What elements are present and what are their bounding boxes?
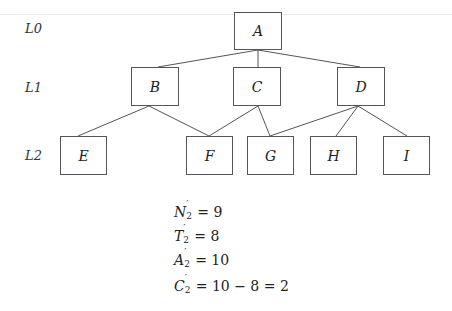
prime-mark: ′ <box>185 272 187 283</box>
subscript: 2 <box>185 285 191 295</box>
node-i: I <box>383 136 430 175</box>
node-d: D <box>337 67 385 106</box>
formula-symbol: A <box>174 252 184 268</box>
level-label-l1: L1 <box>25 80 42 95</box>
prime-subscript: ′2 <box>183 231 191 241</box>
node-g: G <box>247 136 294 175</box>
node-label: G <box>265 148 276 164</box>
subscript: 2 <box>184 259 190 269</box>
formula-rhs: = 10 <box>195 252 229 268</box>
edge-c-f <box>209 106 258 136</box>
node-c: C <box>233 67 281 106</box>
prime-mark: ′ <box>186 198 188 209</box>
node-label: I <box>404 148 410 164</box>
formula-symbol: N <box>174 204 186 220</box>
edge-a-d <box>258 50 360 67</box>
formula-rhs: = 9 <box>197 204 222 220</box>
formula-n: N′2= 9 <box>174 204 222 220</box>
formula-symbol: T <box>174 228 183 244</box>
formula-symbol: C <box>174 278 185 294</box>
prime-mark: ′ <box>184 246 186 257</box>
node-label: A <box>253 23 263 39</box>
node-h: H <box>310 136 357 175</box>
formula-a: A′2= 10 <box>174 252 229 268</box>
formula-rhs: = 10 − 8 = 2 <box>196 278 289 294</box>
node-label: B <box>150 79 160 95</box>
node-b: B <box>131 67 179 106</box>
edge-b-e <box>78 106 149 136</box>
subscript: 2 <box>183 235 189 245</box>
level-label-l2: L2 <box>25 148 42 163</box>
edge-d-h <box>336 106 358 136</box>
prime-subscript: ′2 <box>185 281 193 291</box>
node-label: D <box>355 79 366 95</box>
formula-c: C′2= 10 − 8 = 2 <box>174 278 289 294</box>
node-f: F <box>186 136 233 175</box>
node-a: A <box>234 12 282 50</box>
node-label: F <box>205 148 215 164</box>
formula-rhs: = 8 <box>194 228 219 244</box>
prime-subscript: ′2 <box>184 255 192 265</box>
prime-mark: ′ <box>183 222 185 233</box>
prime-subscript: ′2 <box>186 207 194 217</box>
edge-c-g <box>258 106 270 136</box>
edge-d-g <box>270 106 358 136</box>
edge-b-f <box>149 106 209 136</box>
node-e: E <box>60 136 107 175</box>
formula-t: T′2= 8 <box>174 228 219 244</box>
node-label: E <box>78 148 88 164</box>
subscript: 2 <box>186 211 192 221</box>
node-label: H <box>327 148 339 164</box>
edge-a-b <box>158 50 258 67</box>
node-label: C <box>252 79 263 95</box>
edge-d-i <box>358 106 407 136</box>
level-label-l0: L0 <box>25 21 42 36</box>
